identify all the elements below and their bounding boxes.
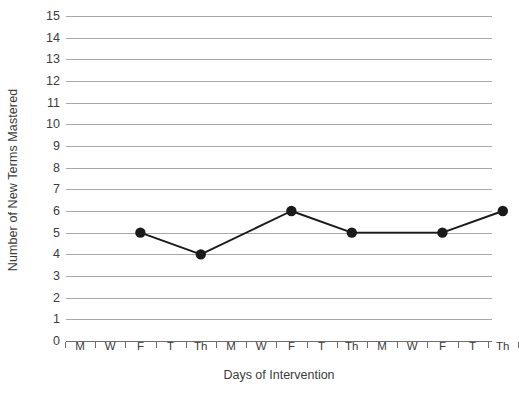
x-axis-title: Days of Intervention [66,368,492,382]
y-axis-tick-labels: 0123456789101112131415 [30,0,60,360]
data-point [286,206,296,216]
plot-area [66,0,492,360]
series-line [140,211,502,254]
y-tick-label: 8 [53,161,60,175]
x-tick-label: T [318,340,325,352]
data-series [66,0,492,360]
y-tick-label: 12 [46,74,60,88]
x-tick-label: T [167,340,174,352]
data-point [135,227,145,237]
x-axis-tick-labels: MWFTThMWFTThMWFTTh [66,340,492,360]
x-tick-label: W [407,340,418,352]
x-tick-label: F [137,340,144,352]
y-tick-label: 5 [53,226,60,240]
y-tick-label: 1 [53,312,60,326]
y-tick-label: 11 [47,96,60,110]
x-tick-label: M [226,340,236,352]
x-tick-label: M [75,340,85,352]
x-tick-label: Th [345,340,358,352]
y-axis-title: Number of New Terms Mastered [0,0,26,360]
x-tick-label: T [469,340,476,352]
x-tick-label: F [439,340,446,352]
y-tick-label: 15 [46,9,60,23]
data-point [437,227,447,237]
y-tick-label: 7 [53,182,60,196]
y-tick-label: 6 [53,204,60,218]
x-tick-label: F [288,340,295,352]
y-axis-title-text: Number of New Terms Mastered [6,89,20,272]
data-point [498,206,508,216]
data-point [347,227,357,237]
x-tick-label: W [105,340,116,352]
y-tick-label: 9 [53,139,60,153]
y-tick-label: 4 [53,247,60,261]
y-tick-label: 3 [53,269,60,283]
x-tick-label: Th [496,340,509,352]
data-point [196,249,206,259]
y-tick-label: 13 [46,52,60,66]
y-tick-label: 14 [46,31,60,45]
x-tick-label: M [377,340,387,352]
y-tick-label: 2 [53,291,60,305]
y-tick-label: 10 [46,117,60,131]
x-tick-label: W [256,340,267,352]
y-tick-label: 0 [53,334,60,348]
x-tick-label: Th [194,340,207,352]
